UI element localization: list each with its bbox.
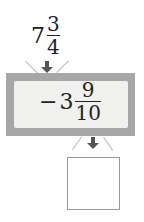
operation-mixed-number: − 3 9 10 [39,80,101,123]
input-mixed-number: 7 3 4 [31,14,60,57]
operation-sign: − [39,91,57,113]
operation-numerator: 9 [82,80,95,100]
operation-denominator: 10 [75,103,100,123]
input-fraction: 3 4 [47,14,60,57]
input-ray-left [25,61,38,74]
output-answer-box[interactable] [67,157,120,210]
operation-fraction: 9 10 [75,80,100,123]
input-whole: 7 [31,25,45,47]
input-ray-right [56,60,69,73]
operation-whole: 3 [59,91,73,113]
input-numerator: 3 [47,14,60,34]
output-ray-right [103,137,113,151]
input-denominator: 4 [47,37,60,57]
output-ray-left [72,136,82,150]
